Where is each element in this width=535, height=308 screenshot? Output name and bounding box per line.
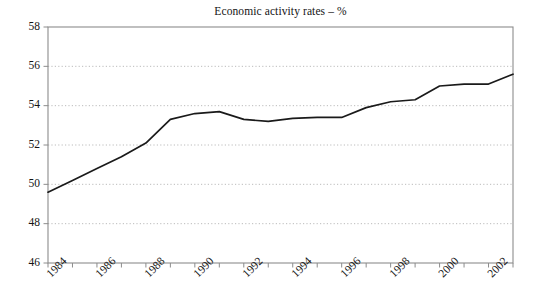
grid-lines — [48, 66, 513, 223]
y-tick-label: 52 — [14, 138, 40, 150]
y-tick-label: 48 — [14, 216, 40, 228]
y-tick-label: 46 — [14, 256, 40, 268]
data-series-line — [48, 74, 513, 192]
y-axis-ticks — [44, 27, 49, 263]
chart-container: Economic activity rates – % 585654525048… — [0, 0, 535, 308]
y-tick-label: 50 — [14, 177, 40, 189]
y-tick-label: 54 — [14, 98, 40, 110]
y-tick-label: 58 — [14, 20, 40, 32]
y-tick-label: 56 — [14, 59, 40, 71]
